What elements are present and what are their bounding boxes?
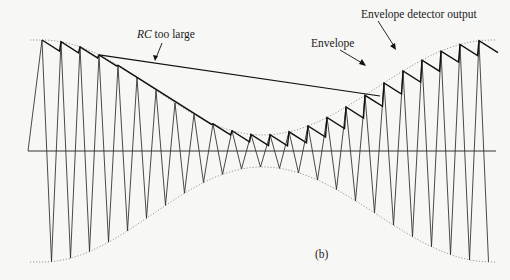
rc-too-large-decay-line — [99, 55, 380, 96]
rc-arrow-head-icon — [153, 55, 158, 61]
upper-envelope-curve — [30, 40, 496, 135]
rc-too-large-label: RC too large — [137, 29, 195, 41]
envelope-arrow-head-icon — [359, 59, 366, 66]
rc-symbol: RC — [137, 28, 152, 40]
figure-caption: (b) — [315, 249, 328, 261]
envelope-arrow-line — [340, 50, 362, 63]
lower-envelope-curve — [30, 167, 496, 262]
rc-too-large-text: too large — [152, 28, 195, 40]
envelope-detector-output-label: Envelope detector output — [361, 9, 477, 21]
detector-output-path — [42, 40, 498, 146]
rc-arrow-line — [156, 43, 162, 58]
envelope-lower-dotted — [30, 167, 496, 262]
envelope-upper-dotted — [30, 40, 496, 135]
detector-arrow-line — [378, 21, 394, 46]
envelope-label: Envelope — [311, 38, 354, 50]
am-envelope-detector-diagram — [0, 0, 510, 280]
detector-output-sawtooth — [42, 40, 498, 146]
